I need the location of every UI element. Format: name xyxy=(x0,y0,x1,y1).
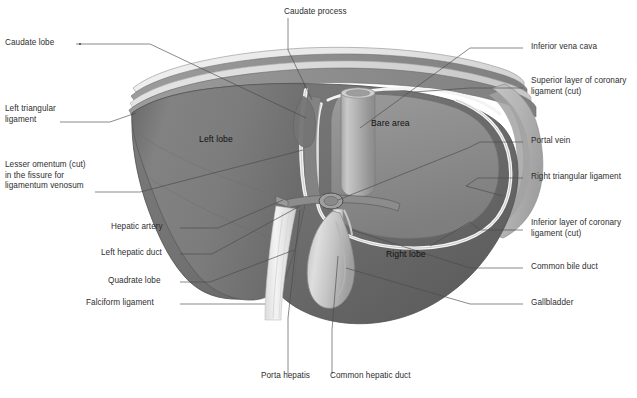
label-portal-vein: Portal vein xyxy=(531,136,570,147)
label-falciform-ligament: Falciform ligament xyxy=(86,298,154,309)
label-left-hepatic-duct: Left hepatic duct xyxy=(101,248,162,259)
label-superior-coronary-ligament: Superior layer of coronary ligament (cut… xyxy=(531,76,627,97)
label-inferior-vena-cava: Inferior vena cava xyxy=(531,42,597,53)
inferior-vena-cava xyxy=(341,88,375,197)
label-quadrate-lobe: Quadrate lobe xyxy=(108,276,161,287)
label-right-lobe: Right lobe xyxy=(386,249,426,259)
label-caudate-lobe: Caudate lobe xyxy=(5,38,54,49)
label-porta-hepatis: Porta hepatis xyxy=(261,371,310,382)
label-bare-area: Bare area xyxy=(371,118,410,128)
label-common-hepatic-duct: Common hepatic duct xyxy=(330,371,411,382)
label-gallbladder: Gallbladder xyxy=(531,298,573,309)
label-left-lobe: Left lobe xyxy=(199,134,233,144)
label-right-triangular-ligament: Right triangular ligament xyxy=(531,172,621,183)
label-left-triangular-ligament: Left triangular ligament xyxy=(5,104,56,125)
label-caudate-process: Caudate process xyxy=(284,7,347,18)
liver-anatomy-illustration xyxy=(0,0,637,398)
label-hepatic-artery: Hepatic artery xyxy=(111,222,163,233)
label-lesser-omentum: Lesser omentum (cut) in the fissure for … xyxy=(5,160,86,192)
label-common-bile-duct: Common bile duct xyxy=(531,262,598,273)
label-inferior-coronary-ligament: Inferior layer of coronary ligament (cut… xyxy=(531,218,621,239)
